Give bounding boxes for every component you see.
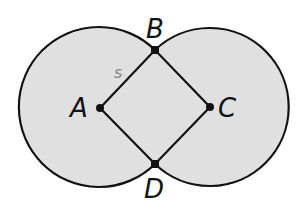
geometry-diagram: B A C D s (0, 0, 306, 214)
label-d: D (144, 174, 164, 204)
label-b: B (146, 14, 164, 44)
side-label-s: s (114, 63, 122, 82)
label-c: C (218, 93, 237, 123)
point-b (151, 46, 159, 54)
point-c (206, 103, 214, 111)
point-d (151, 160, 159, 168)
label-a: A (68, 93, 88, 123)
point-a (96, 104, 104, 112)
